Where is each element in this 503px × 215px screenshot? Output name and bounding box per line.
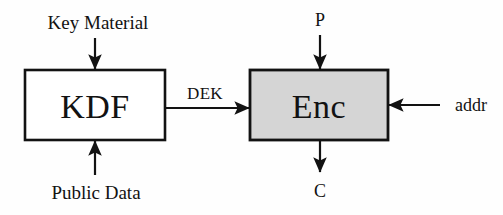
ciphertext-label: C — [314, 182, 326, 200]
key-material-label: Key Material — [48, 13, 149, 32]
plaintext-label: P — [315, 11, 325, 29]
addr-label: addr — [455, 96, 487, 114]
dek-edge-label: DEK — [187, 85, 223, 102]
public-data-label: Public Data — [51, 183, 140, 202]
kdf-block-label: KDF — [60, 90, 130, 124]
enc-block-label: Enc — [292, 90, 346, 124]
diagram-canvas: KDF Enc Key Material Public Data P addr … — [0, 0, 503, 215]
